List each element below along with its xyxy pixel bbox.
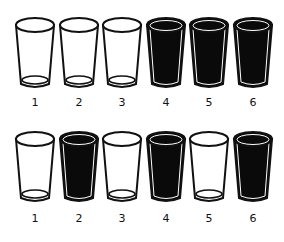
filled-glass-icon bbox=[232, 16, 274, 90]
glass-number-label: 4 bbox=[145, 212, 187, 225]
glass-number-label: 5 bbox=[188, 212, 230, 225]
empty-glass-icon bbox=[14, 130, 56, 204]
filled-glass-icon bbox=[58, 130, 100, 204]
glass-number-label: 6 bbox=[232, 96, 274, 109]
filled-glass-icon bbox=[145, 16, 187, 90]
glass-number-label: 3 bbox=[101, 212, 143, 225]
empty-glass-icon bbox=[101, 130, 143, 204]
glass-number-label: 2 bbox=[58, 96, 100, 109]
glass-number-label: 4 bbox=[145, 96, 187, 109]
filled-glass-icon bbox=[232, 130, 274, 204]
glass-number-label: 1 bbox=[14, 212, 56, 225]
glass-number-label: 6 bbox=[232, 212, 274, 225]
empty-glass-icon bbox=[58, 16, 100, 90]
empty-glass-icon bbox=[101, 16, 143, 90]
glass-number-label: 3 bbox=[101, 96, 143, 109]
glass-number-label: 2 bbox=[58, 212, 100, 225]
glass-number-label: 1 bbox=[14, 96, 56, 109]
filled-glass-icon bbox=[188, 16, 230, 90]
glass-number-label: 5 bbox=[188, 96, 230, 109]
filled-glass-icon bbox=[145, 130, 187, 204]
empty-glass-icon bbox=[188, 130, 230, 204]
empty-glass-icon bbox=[14, 16, 56, 90]
